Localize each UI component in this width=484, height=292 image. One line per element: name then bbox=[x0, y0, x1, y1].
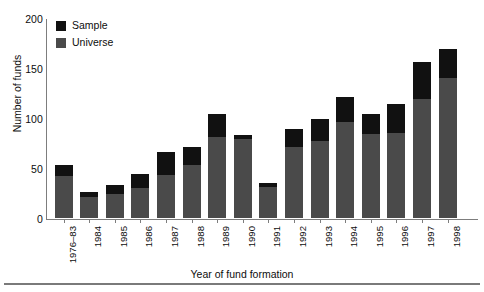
y-axis-line bbox=[46, 19, 47, 219]
bar-segment-universe bbox=[336, 122, 354, 219]
x-axis-tick-label: 1990 bbox=[247, 226, 257, 290]
bar-segment-sample bbox=[285, 129, 303, 147]
y-axis-tick-label: 50 bbox=[9, 164, 43, 175]
x-axis-title: Year of fund formation bbox=[0, 268, 484, 280]
bar-column bbox=[183, 147, 201, 219]
bar-segment-sample bbox=[336, 97, 354, 122]
chart-figure: 050100150200 Number of funds 1976–831984… bbox=[0, 0, 484, 292]
bar-segment-sample bbox=[208, 114, 226, 137]
x-axis-tick bbox=[320, 219, 321, 223]
bar-segment-universe bbox=[439, 78, 457, 219]
bar-segment-sample bbox=[311, 119, 329, 141]
x-axis-tick-label: 1988 bbox=[196, 226, 206, 290]
x-axis-tick bbox=[396, 219, 397, 223]
bar-segment-sample bbox=[183, 147, 201, 165]
legend-label-sample: Sample bbox=[72, 20, 108, 31]
x-axis-tick bbox=[64, 219, 65, 223]
bar-column bbox=[387, 104, 405, 219]
bar-segment-universe bbox=[208, 137, 226, 219]
y-axis-tick-label: 0 bbox=[9, 214, 43, 225]
x-axis-tick-label: 1995 bbox=[375, 226, 385, 290]
bar-segment-sample bbox=[55, 165, 73, 176]
x-axis-tick-label: 1984 bbox=[93, 226, 103, 290]
y-axis-title: Number of funds bbox=[12, 34, 23, 154]
x-axis-tick-label: 1996 bbox=[400, 226, 410, 290]
bar-column bbox=[336, 97, 354, 219]
bar-segment-universe bbox=[183, 165, 201, 219]
x-axis-tick-label: 1987 bbox=[170, 226, 180, 290]
bar-segment-universe bbox=[80, 197, 98, 219]
x-axis-tick bbox=[243, 219, 244, 223]
x-axis-tick-label: 1991 bbox=[272, 226, 282, 290]
bar-column bbox=[157, 152, 175, 219]
bar-column bbox=[362, 114, 380, 219]
bar-column bbox=[311, 119, 329, 219]
x-axis-tick-label: 1998 bbox=[452, 226, 462, 290]
bar-column bbox=[259, 183, 277, 219]
bar-segment-universe bbox=[157, 175, 175, 219]
x-axis-tick bbox=[89, 219, 90, 223]
bar-column bbox=[106, 185, 124, 219]
x-axis-tick bbox=[268, 219, 269, 223]
legend-item-sample: Sample bbox=[56, 18, 113, 33]
bar-segment-sample bbox=[131, 174, 149, 188]
bar-column bbox=[131, 174, 149, 219]
x-axis-tick bbox=[345, 219, 346, 223]
x-axis-tick-label: 1985 bbox=[119, 226, 129, 290]
bar-segment-universe bbox=[106, 194, 124, 219]
x-axis-tick bbox=[217, 219, 218, 223]
bar-segment-universe bbox=[362, 134, 380, 219]
y-axis-tick-label: 200 bbox=[9, 14, 43, 25]
bar-segment-sample bbox=[106, 185, 124, 194]
legend-swatch-sample-icon bbox=[56, 21, 66, 31]
x-axis-tick-label: 1994 bbox=[349, 226, 359, 290]
bar-segment-universe bbox=[285, 147, 303, 219]
x-axis-tick bbox=[166, 219, 167, 223]
bar-column bbox=[234, 135, 252, 219]
bar-segment-sample bbox=[157, 152, 175, 175]
x-axis-tick-label: 1986 bbox=[144, 226, 154, 290]
bar-segment-sample bbox=[362, 114, 380, 134]
x-axis-tick bbox=[115, 219, 116, 223]
bar-segment-sample bbox=[413, 62, 431, 99]
bar-segment-universe bbox=[234, 139, 252, 219]
bar-segment-sample bbox=[387, 104, 405, 133]
bar-column bbox=[80, 192, 98, 219]
x-axis-line bbox=[46, 219, 478, 220]
x-axis-tick bbox=[294, 219, 295, 223]
chart-legend: Sample Universe bbox=[56, 18, 113, 52]
x-axis-tick-label: 1976–83 bbox=[68, 226, 78, 290]
x-axis-tick-label: 1997 bbox=[426, 226, 436, 290]
legend-swatch-universe-icon bbox=[56, 38, 66, 48]
x-axis-tick-label: 1992 bbox=[298, 226, 308, 290]
bar-segment-universe bbox=[413, 99, 431, 219]
bar-column bbox=[208, 114, 226, 219]
footer-divider bbox=[4, 283, 480, 285]
x-axis-tick bbox=[140, 219, 141, 223]
legend-label-universe: Universe bbox=[72, 37, 113, 48]
x-axis-tick bbox=[192, 219, 193, 223]
bar-segment-universe bbox=[259, 187, 277, 219]
bar-segment-universe bbox=[387, 133, 405, 219]
bar-segment-universe bbox=[311, 141, 329, 219]
x-axis-tick bbox=[448, 219, 449, 223]
bar-column bbox=[285, 129, 303, 219]
bar-segment-sample bbox=[439, 49, 457, 78]
x-axis-tick bbox=[422, 219, 423, 223]
x-axis-tick-label: 1989 bbox=[221, 226, 231, 290]
legend-item-universe: Universe bbox=[56, 35, 113, 50]
x-axis-tick bbox=[371, 219, 372, 223]
bar-column bbox=[439, 49, 457, 219]
bar-column bbox=[55, 165, 73, 219]
bar-segment-universe bbox=[55, 176, 73, 219]
bar-segment-universe bbox=[131, 188, 149, 219]
x-axis-tick-label: 1993 bbox=[324, 226, 334, 290]
bar-column bbox=[413, 62, 431, 219]
